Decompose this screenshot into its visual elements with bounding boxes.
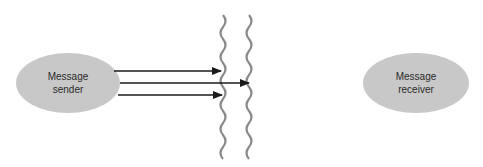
receiver-label-line2: receiver xyxy=(398,84,434,95)
message-sender-node: Message sender xyxy=(16,53,120,113)
sender-label-line1: Message xyxy=(48,71,89,82)
message-receiver-node: Message receiver xyxy=(363,53,469,113)
sender-label-line2: sender xyxy=(53,84,84,95)
barrier-wave-2 xyxy=(247,15,252,159)
diagram-canvas: Message sender Message receiver xyxy=(0,0,483,167)
barrier-wave-1 xyxy=(221,15,226,159)
receiver-label-line1: Message xyxy=(396,71,437,82)
